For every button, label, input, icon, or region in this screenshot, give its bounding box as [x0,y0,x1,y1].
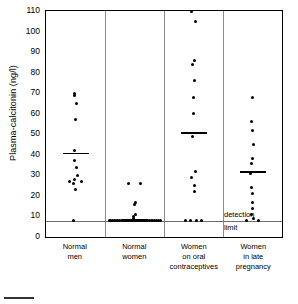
data-point [191,135,194,138]
calcitonin-scatter-figure: Plasma-calcitonin (ng/l) 010203040506070… [0,0,298,304]
y-axis-tick-labels: 0102030405060708090100110 [14,0,40,304]
group-label-line: women [105,252,165,262]
group-label-line: Women [164,242,224,252]
footer-rule [4,297,34,299]
data-point [251,192,254,195]
data-point [257,219,260,222]
data-point [127,182,130,185]
data-point [184,219,187,222]
data-point [251,207,254,210]
data-point [251,96,254,99]
data-point [74,118,77,121]
y-tick-label: 70 [14,89,40,96]
group-label: Normalmen [45,242,105,302]
data-point [190,176,193,179]
y-tick-label: 80 [14,68,40,75]
data-point [194,170,197,173]
data-point [74,188,77,191]
data-point [250,120,253,123]
group-label-line: in late [224,252,284,262]
group-separator [223,11,224,237]
group-label: Womenin latepregnancy [224,242,284,302]
group-label-line: contraceptives [164,262,224,272]
y-tick-label: 90 [14,48,40,55]
group-label: Womenon oralcontraceptives [164,242,224,302]
data-point [200,219,203,222]
data-point [75,102,78,105]
x-axis-line [45,237,283,238]
data-point [193,184,196,187]
y-tick-label: 50 [14,130,40,137]
group-label-line: Normal [105,242,165,252]
data-point [251,157,254,160]
data-point [76,174,79,177]
data-point [191,63,194,66]
data-point [75,166,78,169]
mean-bar [122,219,148,220]
group-label-line: men [45,252,105,262]
data-point [250,162,253,165]
detection-limit-label-line2: limit [224,223,237,232]
data-point [194,20,197,23]
data-point [251,201,254,204]
y-tick-label: 30 [14,171,40,178]
y-tick-label: 60 [14,109,40,116]
data-point [139,182,142,185]
group-label-line: Women [224,242,284,252]
data-point [195,219,198,222]
data-point [72,182,75,185]
data-point [192,96,195,99]
y-tick-label: 10 [14,212,40,219]
group-separator [164,11,165,237]
group-label: Normalwomen [105,242,165,302]
data-point [245,219,248,222]
data-point [250,186,253,189]
data-point [80,180,83,183]
data-point [73,149,76,152]
y-tick-label: 110 [14,7,40,14]
data-point [193,59,196,62]
group-label-line: pregnancy [224,262,284,272]
group-label-line: Normal [45,242,105,252]
mean-bar [63,153,89,154]
x-axis-group-labels: NormalmenNormalwomenWomenon oralcontrace… [45,242,283,302]
group-label-line: on oral [164,252,224,262]
data-point [190,10,193,13]
data-point [73,94,76,97]
mean-bar [181,132,207,133]
y-tick-label: 20 [14,191,40,198]
data-point [192,112,195,115]
data-point [159,219,162,222]
data-point [68,180,71,183]
data-point [193,79,196,82]
data-point [73,159,76,162]
data-point [252,217,255,220]
mean-bar [240,171,266,172]
data-point [193,190,196,193]
data-point [251,129,254,132]
plot-area: detection limit [45,10,283,238]
group-separator [105,11,106,237]
y-tick-label: 100 [14,27,40,34]
data-point [189,219,192,222]
y-tick-label: 0 [14,233,40,240]
data-point [252,143,255,146]
data-point [73,178,76,181]
y-tick-label: 40 [14,150,40,157]
